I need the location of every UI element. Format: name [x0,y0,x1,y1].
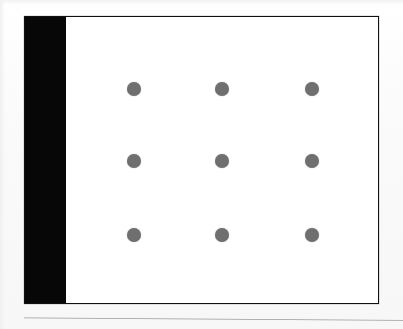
scan-edge-top [0,0,403,5]
grid-dot [127,154,141,168]
grid-dot [215,82,229,96]
grid-dot [127,228,141,242]
dot-grid [66,17,378,303]
grid-dot [215,154,229,168]
scan-edge-left [0,0,5,329]
document-page [0,0,403,329]
figure-frame [24,16,379,304]
bottom-rule [24,317,403,321]
left-black-band [25,17,66,303]
plot-area [25,17,378,303]
grid-dot [305,82,319,96]
grid-dot [305,154,319,168]
grid-dot [215,228,229,242]
grid-dot [305,228,319,242]
grid-dot [127,82,141,96]
